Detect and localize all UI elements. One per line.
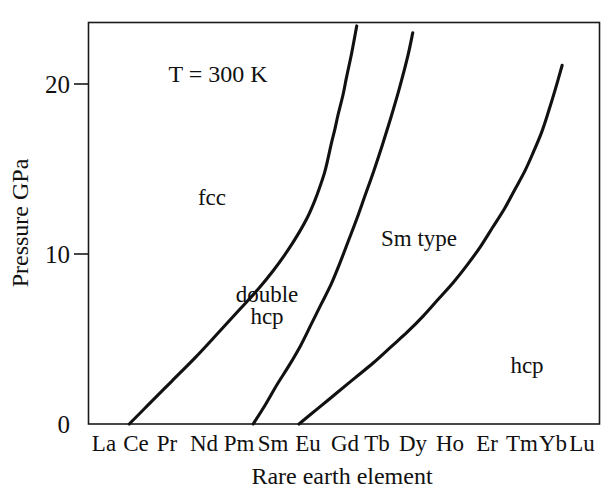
x-tick-label-er: Er <box>476 431 498 456</box>
y-axis-title: Pressure GPa <box>7 158 33 287</box>
region-label-double-hcp: hcp <box>250 304 283 329</box>
x-tick-label-dy: Dy <box>399 431 428 456</box>
temperature-annotation: T = 300 K <box>168 61 268 87</box>
x-tick-label-eu: Eu <box>295 431 321 456</box>
x-tick-label-nd: Nd <box>190 431 219 456</box>
y-tick-label-20: 20 <box>45 71 70 98</box>
phase-diagram-plot: 20 10 0 Pressure GPa La Ce Pr Nd Pm Sm E… <box>0 0 615 503</box>
region-label-fcc: fcc <box>198 185 226 210</box>
x-tick-label-tm: Tm <box>506 431 538 456</box>
y-tick-label-0: 0 <box>58 411 71 438</box>
x-tick-label-gd: Gd <box>331 431 360 456</box>
region-label-sm-type: Sm type <box>381 226 457 251</box>
x-tick-label-ho: Ho <box>436 431 464 456</box>
x-tick-label-sm: Sm <box>258 431 289 456</box>
x-tick-label-tb: Tb <box>364 431 390 456</box>
x-tick-label-lu: Lu <box>569 431 595 456</box>
x-tick-label-yb: Yb <box>539 431 567 456</box>
x-axis-title: Rare earth element <box>251 463 433 489</box>
x-tick-label-pm: Pm <box>224 431 255 456</box>
x-tick-label-pr: Pr <box>157 431 178 456</box>
region-label-hcp: hcp <box>510 353 543 378</box>
x-tick-label-la: La <box>92 431 116 456</box>
phase-diagram-figure: 20 10 0 Pressure GPa La Ce Pr Nd Pm Sm E… <box>0 0 615 503</box>
y-tick-label-10: 10 <box>45 241 70 268</box>
x-tick-label-ce: Ce <box>123 431 149 456</box>
